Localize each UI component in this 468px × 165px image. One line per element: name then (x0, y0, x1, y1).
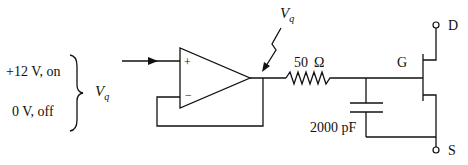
drain-wire (423, 28, 436, 60)
input-arrow-icon (148, 57, 158, 65)
drain-terminal-icon (433, 22, 439, 28)
input-vq-label: Vq (95, 83, 109, 102)
opamp-plus: + (184, 55, 191, 69)
lightning-arrow-icon (266, 28, 281, 66)
feedback-wire (157, 78, 263, 126)
output-vq-label: Vq (280, 5, 294, 24)
drain-label: D (448, 18, 458, 33)
source-terminal-icon (433, 147, 439, 153)
source-lead (423, 95, 436, 147)
circuit-diagram: +12 V, on 0 V, off Vq + − Vq 50Ω G 2000 … (0, 0, 468, 165)
lightning-arrowhead-icon (262, 62, 270, 72)
resistor-label: 50Ω (294, 55, 324, 70)
capacitor-label: 2000 pF (310, 120, 357, 135)
opamp-minus: − (185, 88, 192, 102)
input-on-label: +12 V, on (6, 64, 60, 79)
resistor-zigzag-icon (286, 72, 333, 84)
gate-label: G (397, 55, 407, 70)
input-off-label: 0 V, off (12, 104, 54, 119)
source-label: S (448, 143, 456, 158)
brace-icon (70, 55, 83, 131)
